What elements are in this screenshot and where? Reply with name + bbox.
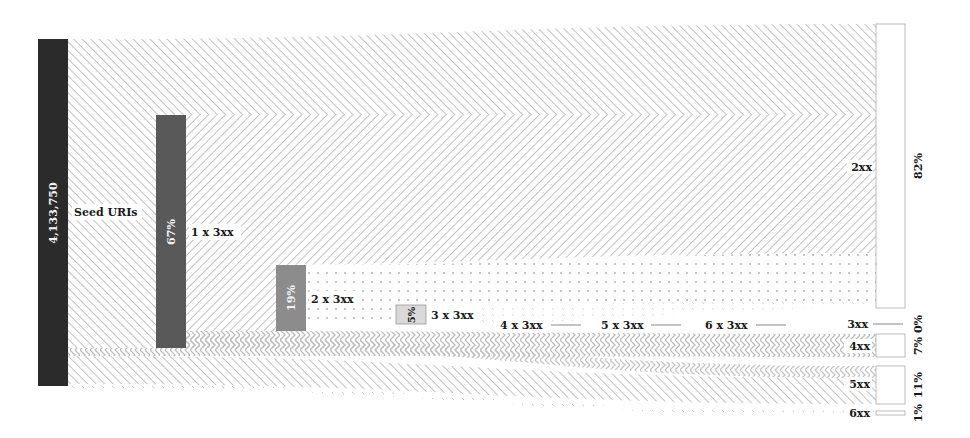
node-3x3xx[interactable]: 5% 3 x 3xx bbox=[396, 305, 481, 324]
3x3xx-pct: 5% bbox=[406, 306, 417, 323]
4xx-pct: 7% bbox=[912, 336, 925, 355]
flow-seed-to-2xx bbox=[68, 24, 876, 115]
3x3xx-label: 3 x 3xx bbox=[431, 309, 474, 322]
1x3xx-label: 1 x 3xx bbox=[191, 226, 234, 239]
node-5x3xx[interactable]: 5 x 3xx bbox=[599, 317, 681, 333]
4xx-label: 4xx bbox=[849, 340, 870, 353]
5xx-label: 5xx bbox=[849, 378, 870, 391]
sankey-diagram: 4,133,750 Seed URIs 67% 1 x 3xx 19% 2 x … bbox=[0, 0, 970, 438]
2xx-label: 2xx bbox=[851, 161, 872, 174]
seed-count: 4,133,750 bbox=[47, 182, 60, 244]
flow-seed-to-5xx bbox=[68, 356, 876, 404]
3xx-label: 3xx bbox=[847, 318, 868, 331]
3xx-pct: 0% bbox=[912, 314, 925, 333]
flow-2x3xx-to-3x3xx bbox=[306, 305, 396, 324]
5x3xx-label: 5 x 3xx bbox=[601, 319, 644, 332]
1x3xx-pct: 67% bbox=[165, 219, 178, 245]
2xx-pct: 82% bbox=[912, 153, 925, 179]
4x3xx-label: 4 x 3xx bbox=[500, 319, 543, 332]
node-3xx[interactable]: 3xx 0% bbox=[844, 314, 925, 333]
node-6xx[interactable]: 6xx 1% bbox=[844, 403, 925, 422]
flow-1x3xx-to-2x3xx bbox=[186, 265, 276, 331]
5xx-pct: 11% bbox=[912, 372, 925, 398]
2x3xx-pct: 19% bbox=[285, 285, 298, 311]
flow-bands bbox=[68, 24, 876, 415]
6xx-pct: 1% bbox=[912, 403, 925, 422]
6x3xx-label: 6 x 3xx bbox=[705, 319, 748, 332]
node-6x3xx[interactable]: 6 x 3xx bbox=[703, 317, 786, 333]
6xx-label: 6xx bbox=[849, 407, 870, 420]
2x3xx-label: 2 x 3xx bbox=[311, 293, 354, 306]
flow-seed-to-1x3xx bbox=[68, 115, 156, 348]
seed-label: Seed URIs bbox=[74, 206, 138, 219]
flow-1x3xx-to-2xx bbox=[186, 115, 876, 265]
